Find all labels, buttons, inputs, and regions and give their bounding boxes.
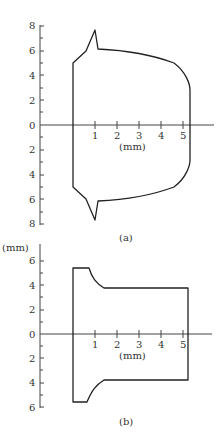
y-tick-label: 0 xyxy=(29,120,35,131)
x-tick-label: 4 xyxy=(158,130,164,141)
y-tick-label: 2 xyxy=(29,95,35,106)
y-tick-label: 4 xyxy=(29,377,35,388)
y-tick-label: 0 xyxy=(29,329,35,340)
y-tick-label: 8 xyxy=(29,20,35,31)
panel-b: (mm) 6 4 2 0 2 4 6 xyxy=(2,242,212,427)
caption-a: (a) xyxy=(119,232,133,243)
y-tick-label: 4 xyxy=(29,70,35,81)
y-tick-label: 2 xyxy=(29,144,35,155)
x-tick-label: 2 xyxy=(114,339,120,350)
panel-a: 8 6 4 2 0 2 4 6 8 1 2 3 4 5 (mm) (a) xyxy=(29,20,214,243)
y-tick-label: 4 xyxy=(29,280,35,291)
y-tick-label: 6 xyxy=(29,255,35,266)
y-tick-label: 2 xyxy=(29,304,35,315)
x-tick-label: 1 xyxy=(92,130,98,141)
caption-b: (b) xyxy=(119,416,133,427)
x-tick-label: 3 xyxy=(136,339,142,350)
y-tick-label: 6 xyxy=(29,402,35,413)
y-tick-label: 6 xyxy=(29,45,35,56)
x-tick-label: 1 xyxy=(92,339,98,350)
figure-canvas: 8 6 4 2 0 2 4 6 8 1 2 3 4 5 (mm) (a) (mm… xyxy=(0,0,222,447)
x-tick-label: 5 xyxy=(180,130,186,141)
profile-outline-b xyxy=(73,268,188,402)
y-tick-label: 4 xyxy=(29,169,35,180)
y-tick-label: 6 xyxy=(29,194,35,205)
y-axis-unit-label: (mm) xyxy=(2,242,29,253)
x-tick-label: 2 xyxy=(114,130,120,141)
x-axis-label-a: (mm) xyxy=(119,141,146,152)
x-tick-label: 5 xyxy=(180,339,186,350)
x-axis-label-b: (mm) xyxy=(119,350,146,361)
x-tick-label: 3 xyxy=(136,130,142,141)
x-tick-label: 4 xyxy=(158,339,164,350)
y-tick-label: 2 xyxy=(29,353,35,364)
y-tick-label: 8 xyxy=(29,218,35,229)
